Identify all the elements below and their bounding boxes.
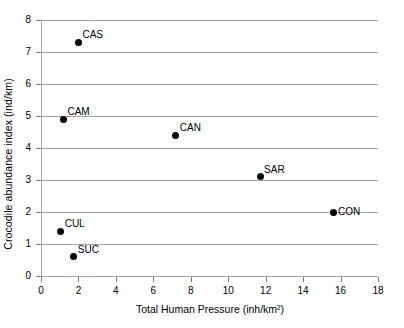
data-point-marker (172, 132, 179, 139)
x-tick-label: 0 (26, 285, 56, 296)
gridline (41, 116, 378, 117)
x-tick-mark (78, 277, 79, 282)
plot-area: CASCAMCANSARCONCULSUC (41, 20, 378, 276)
data-point-label: CON (338, 206, 360, 217)
x-tick-mark (341, 277, 342, 282)
data-point-marker (75, 39, 82, 46)
x-tick-label: 16 (326, 285, 356, 296)
x-tick-label: 14 (288, 285, 318, 296)
x-tick-label: 8 (176, 285, 206, 296)
gridline (41, 52, 378, 53)
data-point-marker (57, 228, 64, 235)
x-tick-label: 12 (251, 285, 281, 296)
x-tick-mark (228, 277, 229, 282)
gridline (41, 84, 378, 85)
y-tick-label: 7 (5, 47, 31, 57)
x-tick-label: 6 (138, 285, 168, 296)
data-point-label: CAS (82, 29, 103, 40)
y-tick-label: 4 (5, 143, 31, 153)
x-tick-mark (41, 277, 42, 282)
x-tick-label: 18 (363, 285, 393, 296)
gridline (41, 180, 378, 181)
y-tick-label: 6 (5, 79, 31, 89)
data-point-label: CUL (65, 218, 85, 229)
x-tick-label: 2 (63, 285, 93, 296)
data-point-marker (257, 173, 264, 180)
data-point-label: SAR (264, 164, 285, 175)
y-tick-label: 8 (5, 15, 31, 25)
scatter-chart: Crocodile abundance index (ind/km) 01234… (0, 0, 404, 328)
gridline (41, 212, 378, 213)
y-tick-label: 5 (5, 111, 31, 121)
x-tick-label: 10 (213, 285, 243, 296)
data-point-marker (330, 209, 337, 216)
data-point-label: CAN (180, 122, 201, 133)
x-axis-title: Total Human Pressure (inh/km²) (41, 302, 379, 316)
data-point-marker (60, 116, 67, 123)
x-tick-mark (191, 277, 192, 282)
data-point-label: SUC (78, 244, 99, 255)
x-tick-mark (153, 277, 154, 282)
y-tick-label: 2 (5, 207, 31, 217)
y-tick-label: 1 (5, 239, 31, 249)
x-tick-label: 4 (101, 285, 131, 296)
gridline (41, 276, 378, 277)
data-point-label: CAM (67, 106, 89, 117)
x-tick-mark (116, 277, 117, 282)
x-tick-mark (303, 277, 304, 282)
y-tick-label: 0 (5, 271, 31, 281)
gridline (41, 20, 378, 21)
x-tick-mark (378, 277, 379, 282)
gridline (41, 148, 378, 149)
x-tick-mark (266, 277, 267, 282)
data-point-marker (70, 253, 77, 260)
y-tick-label: 3 (5, 175, 31, 185)
